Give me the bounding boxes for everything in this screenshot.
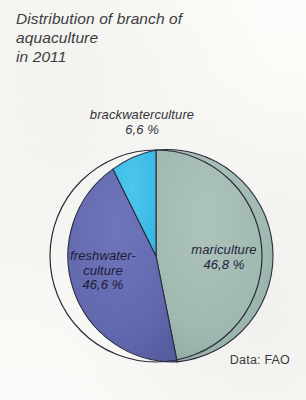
pie-label-freshwaterculture-name-line1: freshwater- [50,249,156,264]
pie-label-freshwaterculture-name-line2: culture [50,264,156,279]
pie-label-brackwaterculture-name: brackwaterculture [52,108,232,123]
source-note: Data: FAO [230,353,290,367]
pie-label-mariculture-name: mariculture [172,243,276,258]
pie-chart-svg [0,0,306,400]
pie-label-freshwaterculture-value: 46,6 % [50,278,156,293]
pie-label-mariculture-value: 46,8 % [172,258,276,273]
pie-label-brackwaterculture-value: 6,6 % [52,123,232,138]
pie-label-brackwaterculture: brackwaterculture 6,6 % [52,108,232,137]
pie-chart: brackwaterculture 6,6 % mariculture 46,8… [0,0,306,400]
pie-label-mariculture: mariculture 46,8 % [172,243,276,272]
pie-label-freshwaterculture: freshwater- culture 46,6 % [50,249,156,293]
